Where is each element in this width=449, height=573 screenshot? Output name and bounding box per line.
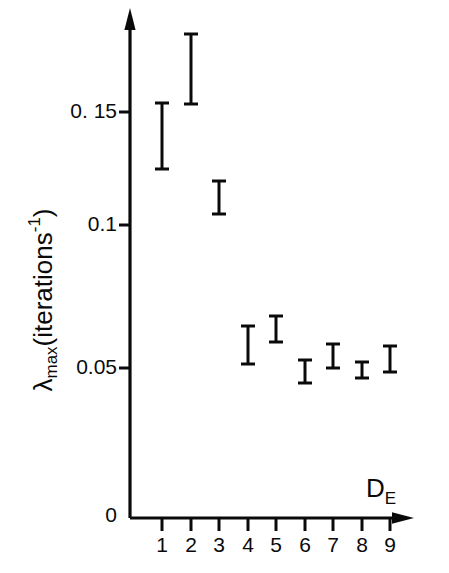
error-bar-de-7 <box>326 344 340 368</box>
y-tick-label-0-1: 0.1 <box>88 212 117 235</box>
x-tick-label-7: 7 <box>327 533 339 556</box>
error-bar-de-3 <box>212 181 226 214</box>
x-tick-label-9: 9 <box>384 533 396 556</box>
x-axis-arrow-icon <box>392 512 414 524</box>
y-tick-label-0-05: 0.05 <box>76 355 117 378</box>
y-tick-label-0-15: 0. 15 <box>70 99 117 122</box>
x-axis-title-subscript: E <box>385 489 396 508</box>
error-bar-de-9 <box>383 346 397 372</box>
error-bar-de-1 <box>155 103 169 169</box>
x-axis-tick-labels: 1 2 3 4 5 6 7 8 9 <box>156 533 396 556</box>
x-axis-title: DE <box>366 473 396 508</box>
y-axis-title: λmax(iterations-1) <box>25 208 61 391</box>
x-tick-label-3: 3 <box>213 533 225 556</box>
x-tick-label-8: 8 <box>356 533 368 556</box>
y-axis-tick-labels: 0 0.05 0.1 0. 15 <box>70 99 117 526</box>
x-tick-label-2: 2 <box>185 533 197 556</box>
error-bar-de-4 <box>241 326 255 364</box>
y-axis-title-superscript: -1 <box>25 217 44 232</box>
error-bar-de-2 <box>184 34 198 104</box>
y-axis-title-subscript: max <box>42 346 61 379</box>
data-series-lambda-max <box>155 34 397 383</box>
figure-root: 0 0.05 0.1 0. 15 1 2 3 4 5 6 7 8 <box>0 0 449 573</box>
error-bar-de-8 <box>355 362 369 378</box>
x-axis-title-main: D <box>366 473 385 503</box>
error-bar-de-6 <box>298 360 312 383</box>
x-tick-label-5: 5 <box>270 533 282 556</box>
svg-text:λmax(iterations-1): λmax(iterations-1) <box>25 208 61 391</box>
y-axis <box>124 8 135 518</box>
y-axis-title-units-open: (iterations <box>28 232 58 346</box>
x-axis-ticks <box>162 518 390 531</box>
svg-text:DE: DE <box>366 473 396 508</box>
y-tick-label-0: 0 <box>105 503 117 526</box>
y-axis-arrow-icon <box>124 8 135 30</box>
y-axis-title-units-close: ) <box>28 208 58 217</box>
error-bar-de-5 <box>269 316 283 342</box>
x-tick-label-1: 1 <box>156 533 168 556</box>
y-axis-title-lambda: λ <box>28 379 58 392</box>
x-tick-label-4: 4 <box>242 533 254 556</box>
y-axis-ticks <box>119 112 130 368</box>
lambda-max-vs-de-chart: 0 0.05 0.1 0. 15 1 2 3 4 5 6 7 8 <box>0 0 449 573</box>
x-tick-label-6: 6 <box>299 533 311 556</box>
x-axis <box>130 512 414 524</box>
